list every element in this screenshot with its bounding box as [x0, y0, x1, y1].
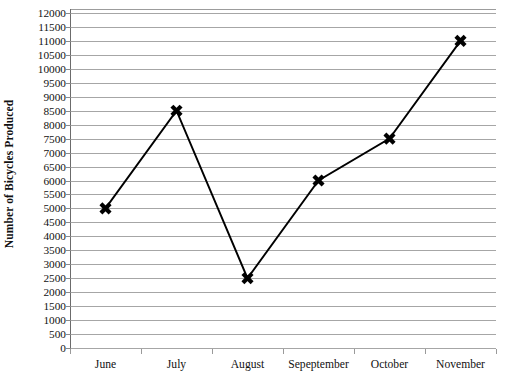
- y-axis-tick-mark: [66, 97, 71, 98]
- y-axis-tick-mark: [66, 194, 71, 195]
- y-axis-tick-mark: [66, 83, 71, 84]
- y-axis-tick-label: 5500: [14, 189, 66, 200]
- y-axis-tick-label: 4000: [14, 231, 66, 242]
- y-axis-tick-mark: [66, 111, 71, 112]
- x-axis-tick-label: June: [95, 357, 116, 372]
- y-axis-tick-label: 11500: [14, 21, 66, 32]
- y-axis-tick-labels: 0500100015002000250030003500400045005000…: [14, 13, 66, 348]
- y-axis-tick-mark: [66, 264, 71, 265]
- x-axis-tick-labels: JuneJulyAugustSepeptemberOctoberNovember: [70, 357, 496, 379]
- y-axis-tick-mark: [66, 278, 71, 279]
- y-axis-tick-mark: [66, 208, 71, 209]
- y-axis-tick-label: 5000: [14, 203, 66, 214]
- y-axis-tick-mark: [66, 55, 71, 56]
- y-axis-tick-mark: [66, 27, 71, 28]
- y-axis-tick-label: 9500: [14, 77, 66, 88]
- y-axis-tick-label: 11000: [14, 35, 66, 46]
- y-axis-tick-mark: [66, 222, 71, 223]
- data-point-marker: [385, 134, 394, 143]
- y-axis-tick-mark: [66, 167, 71, 168]
- y-axis-tick-label: 3500: [14, 245, 66, 256]
- y-axis-tick-label: 0: [14, 343, 66, 354]
- y-axis-tick-mark: [66, 236, 71, 237]
- series-line: [106, 41, 461, 278]
- plot-area: [70, 13, 496, 348]
- y-axis-tick-label: 7500: [14, 133, 66, 144]
- data-point-marker: [172, 106, 181, 115]
- x-axis-tick-label: November: [436, 357, 485, 372]
- y-axis-tick-mark: [66, 334, 71, 335]
- y-axis-tick-mark: [66, 306, 71, 307]
- y-axis-tick-mark: [66, 13, 71, 14]
- y-axis-tick-label: 6000: [14, 175, 66, 186]
- line-chart: Number of Bicycles Produced 050010001500…: [0, 0, 508, 387]
- x-axis-tick-label: Sepeptember: [288, 357, 349, 372]
- y-axis-tick-mark: [66, 69, 71, 70]
- data-point-marker: [243, 274, 252, 283]
- y-axis-tick-mark: [66, 292, 71, 293]
- x-axis-tick-mark: [212, 349, 213, 354]
- y-axis-tick-label: 8000: [14, 119, 66, 130]
- y-axis-tick-mark: [66, 181, 71, 182]
- x-axis-tick-mark: [354, 349, 355, 354]
- x-axis-tick-mark: [141, 349, 142, 354]
- x-axis-tick-mark: [496, 349, 497, 354]
- y-axis-tick-label: 3000: [14, 259, 66, 270]
- y-axis-tick-label: 7000: [14, 147, 66, 158]
- x-axis-tick-mark: [425, 349, 426, 354]
- y-axis-tick-label: 1500: [14, 301, 66, 312]
- x-axis-tick-mark: [283, 349, 284, 354]
- y-axis-tick-label: 10500: [14, 49, 66, 60]
- y-axis-tick-mark: [66, 320, 71, 321]
- data-point-marker: [456, 36, 465, 45]
- y-axis-tick-label: 2000: [14, 287, 66, 298]
- y-axis-tick-label: 1000: [14, 315, 66, 326]
- y-axis-tick-label: 500: [14, 329, 66, 340]
- data-point-marker: [101, 204, 110, 213]
- data-point-marker: [314, 176, 323, 185]
- y-axis-tick-label: 4500: [14, 217, 66, 228]
- y-axis-tick-label: 12000: [14, 8, 66, 19]
- y-axis-tick-label: 10000: [14, 63, 66, 74]
- y-axis-tick-mark: [66, 153, 71, 154]
- y-axis-tick-mark: [66, 41, 71, 42]
- x-axis-tick-label: July: [167, 357, 186, 372]
- y-axis-tick-mark: [66, 139, 71, 140]
- x-axis-tick-label: October: [371, 357, 408, 372]
- x-axis-tick-mark: [70, 349, 71, 354]
- y-axis-tick-label: 2500: [14, 273, 66, 284]
- y-axis-tick-mark: [66, 250, 71, 251]
- y-axis-tick-label: 6500: [14, 161, 66, 172]
- data-series-bicycles-produced: [70, 13, 496, 348]
- y-axis-tick-mark: [66, 125, 71, 126]
- y-axis-tick-label: 8500: [14, 105, 66, 116]
- chart-top-border: [70, 9, 496, 10]
- x-axis-tick-label: August: [231, 357, 265, 372]
- y-axis-tick-label: 9000: [14, 91, 66, 102]
